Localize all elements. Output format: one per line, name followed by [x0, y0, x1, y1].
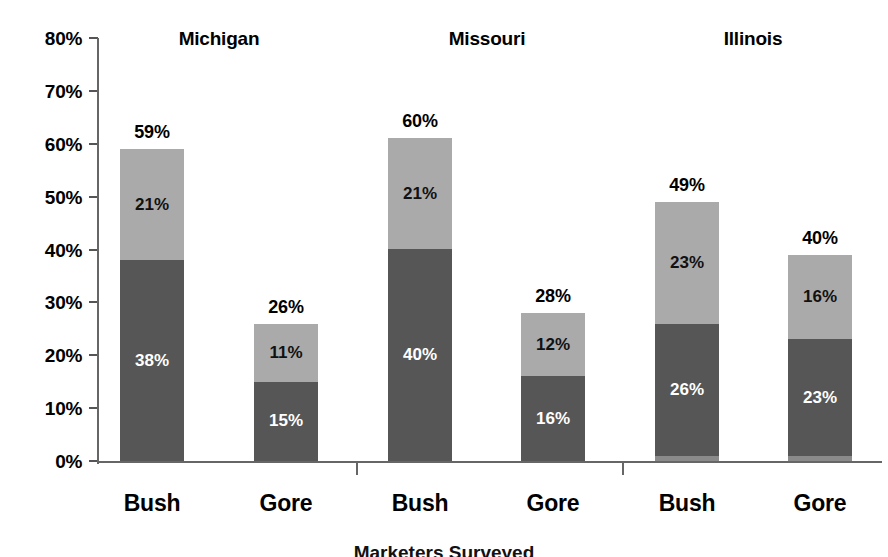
x-axis-category-label: Gore: [750, 490, 888, 517]
segment-value-label: 21%: [403, 184, 437, 204]
category-separator: [622, 462, 624, 475]
bar-segment-lower[interactable]: 23%: [788, 339, 852, 455]
caption-clip: Marketers Surveyed: [0, 543, 888, 557]
chart-caption: Marketers Surveyed: [0, 543, 888, 557]
bar-segment-upper[interactable]: 11%: [254, 324, 318, 382]
bar-segment-upper[interactable]: 16%: [788, 255, 852, 340]
segment-value-label: 23%: [803, 388, 837, 408]
segment-value-label: 40%: [403, 345, 437, 365]
bar-segment-upper[interactable]: 12%: [521, 313, 585, 376]
bar-total-label: 59%: [92, 122, 212, 143]
bar-segment-upper[interactable]: 23%: [655, 202, 719, 324]
segment-value-label: 26%: [670, 380, 704, 400]
segment-value-label: 16%: [803, 287, 837, 307]
group-header-illinois: Illinois: [643, 28, 863, 50]
bar-segment-base[interactable]: [655, 456, 719, 461]
x-axis-category-label: Gore: [216, 490, 356, 517]
y-axis-tick-label: 20%: [0, 346, 82, 365]
y-axis-tick-label: 50%: [0, 187, 82, 206]
bar-total-label: 28%: [493, 286, 613, 307]
bar-total-label: 26%: [226, 297, 346, 318]
bar-segment-lower[interactable]: 38%: [120, 260, 184, 461]
bar-segment-base[interactable]: [788, 456, 852, 461]
segment-value-label: 38%: [135, 351, 169, 371]
segment-value-label: 23%: [670, 253, 704, 273]
segment-value-label: 15%: [269, 411, 303, 431]
bar-segment-upper[interactable]: 21%: [388, 138, 452, 249]
bar-illinois-bush[interactable]: 23%26%: [655, 202, 719, 461]
segment-value-label: 12%: [536, 335, 570, 355]
y-axis-tick-label: 10%: [0, 399, 82, 418]
bar-total-label: 40%: [760, 228, 880, 249]
x-axis-category-label: Bush: [82, 490, 222, 517]
bar-segment-lower[interactable]: 40%: [388, 249, 452, 461]
bar-missouri-bush[interactable]: 21%40%: [388, 138, 452, 461]
bar-segment-upper[interactable]: 21%: [120, 149, 184, 260]
bar-segment-lower[interactable]: 15%: [254, 382, 318, 461]
x-axis-category-label: Gore: [483, 490, 623, 517]
category-separator: [356, 462, 358, 475]
y-axis-line: [97, 38, 99, 464]
y-axis-tick-label: 0%: [0, 452, 82, 471]
y-axis-tick-label: 60%: [0, 134, 82, 153]
y-axis-tick-label: 70%: [0, 81, 82, 100]
segment-value-label: 21%: [135, 195, 169, 215]
y-axis-tick-label: 30%: [0, 293, 82, 312]
bar-michigan-gore[interactable]: 11%15%: [254, 324, 318, 461]
y-axis-tick-label: 80%: [0, 29, 82, 48]
x-axis-category-label: Bush: [617, 490, 757, 517]
x-axis-category-label: Bush: [350, 490, 490, 517]
bar-segment-lower[interactable]: 16%: [521, 376, 585, 461]
segment-value-label: 11%: [269, 343, 302, 363]
bar-illinois-gore[interactable]: 16%23%: [788, 255, 852, 461]
group-header-missouri: Missouri: [377, 28, 597, 50]
bar-total-label: 49%: [627, 175, 747, 196]
bar-missouri-gore[interactable]: 12%16%: [521, 313, 585, 461]
y-axis-tick-label: 40%: [0, 240, 82, 259]
bar-segment-lower[interactable]: 26%: [655, 324, 719, 456]
group-header-michigan: Michigan: [109, 28, 329, 50]
x-axis-baseline: [97, 461, 882, 463]
bar-michigan-bush[interactable]: 21%38%: [120, 149, 184, 461]
segment-value-label: 16%: [536, 409, 570, 429]
bar-total-label: 60%: [360, 111, 480, 132]
